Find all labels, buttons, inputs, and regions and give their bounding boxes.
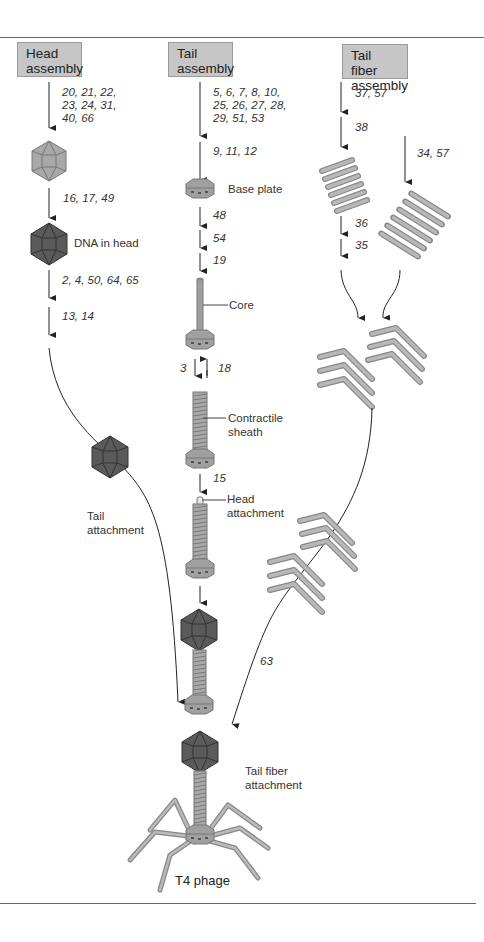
label-line: Tail fiber bbox=[245, 764, 302, 778]
label-line: sheath bbox=[228, 425, 283, 439]
header-line: Head bbox=[26, 46, 75, 61]
bent-fibers-right-icon bbox=[368, 328, 424, 382]
diagram-graphics bbox=[0, 0, 484, 942]
base-plate-label: Base plate bbox=[228, 182, 282, 196]
short-fiber-stack-icon bbox=[322, 160, 367, 211]
head-genes-4: 13, 14 bbox=[62, 310, 94, 323]
t4-phage-title: T4 phage bbox=[175, 873, 230, 888]
tail-genes-6b: 18 bbox=[218, 362, 231, 375]
core-label: Core bbox=[229, 298, 254, 312]
fiber-genes-5: 35 bbox=[355, 239, 368, 252]
empty-head-icon bbox=[32, 141, 66, 181]
core-icon bbox=[197, 279, 203, 337]
fibers-joining-icon bbox=[270, 515, 355, 612]
label-line: Tail bbox=[87, 509, 144, 523]
contractile-sheath-label: Contractile sheath bbox=[228, 411, 283, 439]
tail-genes-4: 54 bbox=[213, 232, 226, 245]
head-genes-1: 20, 21, 22, 23, 24, 31, 40, 66 bbox=[62, 86, 116, 125]
tail-genes-3: 48 bbox=[213, 209, 226, 222]
fiber-genes-1: 37, 57 bbox=[355, 87, 387, 100]
head-genes-3: 2, 4, 50, 64, 65 bbox=[62, 274, 139, 287]
base-plate-icon bbox=[186, 179, 214, 198]
label-line: Head bbox=[227, 492, 284, 506]
gene-line: 40, 66 bbox=[62, 112, 116, 125]
tail-fiber-attachment-label: Tail fiber attachment bbox=[245, 764, 302, 792]
tail-genes-2: 9, 11, 12 bbox=[213, 145, 257, 158]
contractile-sheath-icon bbox=[186, 392, 214, 468]
gene-line: 5, 6, 7, 8, 10, bbox=[213, 86, 287, 99]
fiber-genes-6: 63 bbox=[260, 655, 273, 668]
tail-attachment-label: Tail attachment bbox=[87, 509, 144, 537]
header-line: assembly bbox=[26, 61, 75, 76]
long-fiber-stack-icon bbox=[382, 194, 447, 256]
label-line: attachment bbox=[87, 523, 144, 537]
head-attachment-icon bbox=[186, 497, 214, 578]
fiber-genes-4: 36 bbox=[355, 217, 368, 230]
label-line: attachment bbox=[227, 506, 284, 520]
label-line: Contractile bbox=[228, 411, 283, 425]
tail-genes-7: 15 bbox=[213, 472, 226, 485]
t4-phage-icon bbox=[130, 731, 268, 890]
head-attachment-label: Head attachment bbox=[227, 492, 284, 520]
tail-genes-1: 5, 6, 7, 8, 10, 25, 26, 27, 28, 29, 51, … bbox=[213, 86, 287, 125]
tail-genes-5: 19 bbox=[213, 254, 226, 267]
head-assembly-box: Head assembly bbox=[17, 42, 82, 77]
tail-fiber-assembly-box: Tail fiber assembly bbox=[342, 44, 408, 79]
dna-head-icon bbox=[31, 223, 67, 265]
gene-line: 20, 21, 22, bbox=[62, 86, 116, 99]
phage-without-fibers-icon bbox=[181, 609, 217, 714]
head-genes-2: 16, 17, 49 bbox=[63, 192, 114, 205]
header-line: assembly bbox=[177, 61, 226, 76]
header-line: Tail fiber bbox=[351, 48, 401, 78]
label-line: attachment bbox=[245, 778, 302, 792]
header-line: Tail bbox=[177, 46, 226, 61]
dna-in-head-label: DNA in head bbox=[74, 236, 139, 250]
gene-line: 29, 51, 53 bbox=[213, 112, 287, 125]
gene-line: 25, 26, 27, 28, bbox=[213, 99, 287, 112]
fiber-genes-2: 38 bbox=[355, 121, 368, 134]
tail-assembly-box: Tail assembly bbox=[168, 42, 233, 77]
tail-genes-6a: 3 bbox=[180, 362, 186, 375]
bent-fibers-left-icon bbox=[320, 351, 372, 407]
fiber-genes-3: 34, 57 bbox=[417, 147, 449, 160]
gene-line: 23, 24, 31, bbox=[62, 99, 116, 112]
